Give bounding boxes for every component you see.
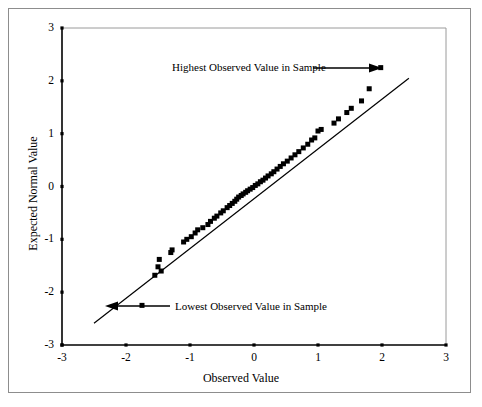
data-point xyxy=(195,227,200,232)
annotation-lowest-observed: Lowest Observed Value in Sample xyxy=(175,301,327,312)
data-point xyxy=(336,116,341,121)
x-tick-label: 3 xyxy=(443,352,449,364)
data-point xyxy=(170,247,175,252)
annotation-highest-observed: Highest Observed Value in Sample xyxy=(172,62,326,73)
data-point xyxy=(312,135,317,140)
data-point xyxy=(301,145,306,150)
data-point xyxy=(332,121,337,126)
x-tick-label: -3 xyxy=(57,352,67,364)
data-point xyxy=(349,106,354,111)
data-point xyxy=(319,127,324,132)
data-point xyxy=(359,98,364,103)
normal-fit-line xyxy=(94,78,409,323)
data-point xyxy=(296,149,301,154)
data-point xyxy=(344,110,349,115)
x-axis-title: Observed Value xyxy=(0,371,482,386)
data-point xyxy=(200,225,205,230)
y-axis-title: Expected Normal Value xyxy=(26,99,41,289)
x-tick-label: 1 xyxy=(315,352,321,364)
x-tick-label: -2 xyxy=(121,352,131,364)
data-point xyxy=(159,269,164,274)
x-tick-label: -1 xyxy=(185,352,195,364)
data-points xyxy=(140,65,384,308)
data-point xyxy=(157,257,162,262)
data-point xyxy=(184,237,189,242)
y-tick-label: 2 xyxy=(28,75,54,87)
qq-plot-figure: -3-2-10123 3210-1-2-3 Observed Value Exp… xyxy=(0,0,482,407)
data-point xyxy=(367,86,372,91)
data-point xyxy=(152,273,157,278)
annotation-arrows xyxy=(105,64,382,311)
y-tick-label: -3 xyxy=(28,339,54,351)
x-tick-label: 0 xyxy=(251,352,257,364)
y-tick-label: 3 xyxy=(28,22,54,34)
x-tick-label: 2 xyxy=(379,352,385,364)
